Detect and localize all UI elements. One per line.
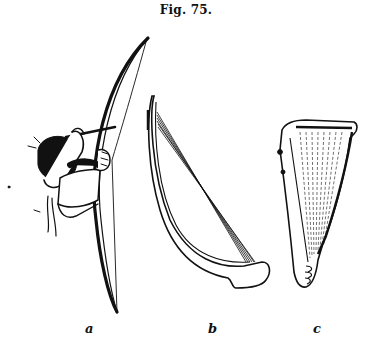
triangular-harp-illustration (278, 120, 357, 287)
archer-bow-illustration (8, 38, 148, 312)
panel-label-a: a (85, 321, 93, 336)
figure-illustration (0, 0, 372, 353)
panel-label-c: c (313, 321, 321, 336)
panel-label-b: b (208, 321, 217, 336)
arched-harp-illustration (148, 96, 269, 288)
